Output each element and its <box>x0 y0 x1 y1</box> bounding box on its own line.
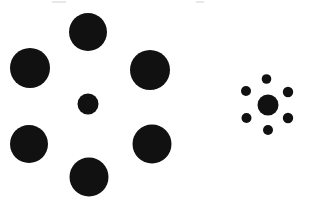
inducer-right-circle <box>130 50 170 90</box>
inducer-n-circle <box>262 74 272 84</box>
target-left-circle <box>78 94 99 115</box>
inducer-sw-circle <box>242 113 252 123</box>
ebbinghaus-illusion-figure <box>0 0 309 202</box>
inducer-ne-circle <box>283 87 293 97</box>
inducer-bottom-center-circle <box>70 158 109 197</box>
inducer-top-center-circle <box>69 13 107 51</box>
inducer-bottom-right-circle <box>133 125 172 164</box>
right-group-target-circle <box>258 95 279 116</box>
inducer-bottom-left-circle <box>10 125 48 163</box>
figure-svg-canvas <box>0 0 309 202</box>
target-right-circle <box>258 95 279 116</box>
inducer-s-circle <box>263 125 273 135</box>
inducer-se-circle <box>283 113 293 123</box>
inducer-left-circle <box>10 48 50 88</box>
inducer-nw-circle <box>241 86 251 96</box>
left-group-target-circle <box>78 94 99 115</box>
